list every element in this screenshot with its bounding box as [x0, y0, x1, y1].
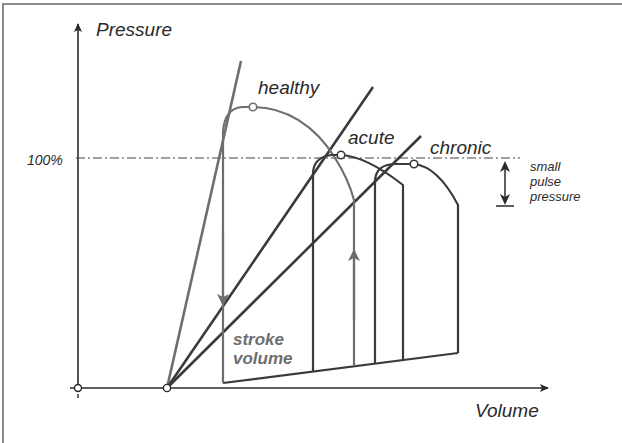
loop-acute — [313, 151, 403, 372]
acute-peak-marker — [337, 151, 345, 159]
stroke-volume-label-line1: stroke — [233, 330, 284, 349]
stroke-volume-label-line2: volume — [233, 349, 293, 368]
label-acute: acute — [348, 127, 394, 148]
espvr-chronic — [167, 136, 421, 388]
axis-origin-marker — [75, 385, 82, 392]
label-healthy: healthy — [258, 77, 321, 98]
healthy-peak-marker — [249, 103, 257, 111]
chronic-peak-marker — [410, 160, 418, 168]
espvr-lines — [167, 61, 421, 388]
pulse-pressure-label-line2: pulse — [529, 174, 561, 189]
y-axis-label: Pressure — [96, 19, 172, 40]
x-axis-label: Volume — [475, 400, 539, 421]
v0-marker — [163, 384, 170, 391]
reference-line-label: 100% — [27, 152, 63, 168]
label-chronic: chronic — [430, 137, 492, 158]
pulse-pressure-label-line1: small — [530, 159, 561, 174]
pulse-pressure-indicator — [496, 161, 514, 206]
loop-chronic — [375, 160, 458, 364]
espvr-healthy — [167, 61, 241, 388]
pulse-pressure-label-line3: pressure — [529, 189, 581, 204]
